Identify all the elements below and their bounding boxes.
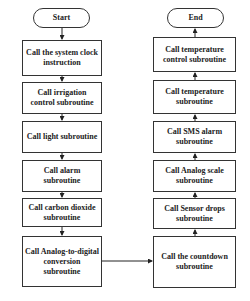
step-irrigation-control: Call irrigation control subroutine [22, 82, 102, 114]
step-carbon-dioxide: Call carbon dioxide subroutine [22, 198, 102, 227]
step-countdown: Call the countdown subroutine [153, 236, 236, 288]
step-analog-to-digital: Call Analog-to-digital conversion subrou… [22, 236, 102, 287]
step-temperature-control: Call temperature control subroutine [153, 37, 236, 72]
step-temperature: Call temperature subroutine [153, 80, 236, 114]
step-system-clock: Call the system clock instruction [22, 40, 102, 76]
step-light: Call light subroutine [22, 121, 102, 153]
step-alarm: Call alarm subroutine [22, 160, 102, 192]
end-terminal: End [167, 8, 224, 28]
step-sms-alarm: Call SMS alarm subroutine [153, 121, 236, 153]
step-sensor-drops: Call Sensor drops subroutine [153, 198, 236, 229]
start-terminal: Start [33, 8, 90, 28]
step-analog-scale: Call Analog scale subroutine [153, 160, 236, 192]
